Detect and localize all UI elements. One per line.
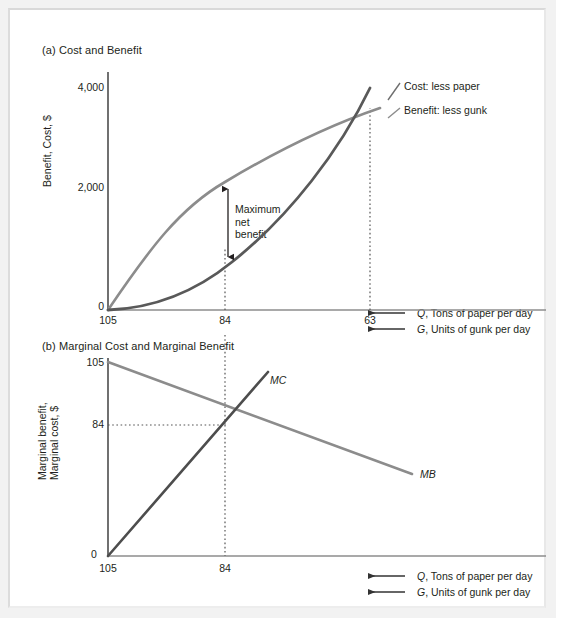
panel-a-axis-note-q-text: , Tons of paper per day [425, 307, 532, 319]
annotation-line-1: Maximum [235, 203, 281, 216]
panel-a-title: (a) Cost and Benefit [42, 44, 142, 56]
panel-b-xtick-105: 105 [95, 562, 121, 574]
panel-a-xtick-63: 63 [357, 314, 383, 326]
panel-a-ytick-2000: 2,000 [64, 181, 104, 193]
panel-b-axis-note-q: Q, Tons of paper per day [417, 570, 532, 582]
panel-a-axis-note-g: G, Units of gunk per day [417, 323, 530, 335]
panel-b-axis-note-g-text: , Units of gunk per day [425, 586, 530, 598]
panel-a-axis-note-q-symbol: Q [417, 307, 425, 319]
panel-b-ytick-105: 105 [72, 356, 104, 368]
panel-b-mc-curve-label: MC [270, 374, 286, 386]
max-net-benefit-annotation: Maximum net benefit [235, 203, 281, 241]
panel-a-xtick-84: 84 [212, 314, 238, 326]
panel-b-y-axis-label-line2: Marginal cost, $ [48, 406, 60, 480]
annotation-line-3: benefit [235, 228, 281, 241]
panel-b-title: (b) Marginal Cost and Marginal Benefit [42, 340, 234, 352]
panel-a-benefit-curve-label: Benefit: less gunk [404, 104, 487, 116]
panel-a-axis-note-g-text: , Units of gunk per day [425, 323, 530, 335]
panel-a-ytick-0: 0 [84, 300, 104, 312]
panel-a-y-axis-label: Benefit, Cost, $ [41, 115, 53, 187]
panel-a-axis-note-g-symbol: G [417, 323, 425, 335]
panel-b-axis-note-q-text: , Tons of paper per day [425, 570, 532, 582]
panel-a-ytick-4000: 4,000 [64, 81, 104, 93]
panel-b-y-axis-label-line1: Marginal benefit, [36, 402, 48, 480]
panel-b-axis-note-g: G, Units of gunk per day [417, 586, 530, 598]
annotation-line-2: net [235, 216, 281, 229]
panel-b-ytick-84: 84 [72, 418, 104, 430]
panel-b-axis-note-g-symbol: G [417, 586, 425, 598]
panel-b-axis-note-q-symbol: Q [417, 570, 425, 582]
panel-a-axis-note-q: Q, Tons of paper per day [417, 307, 532, 319]
panel-b-xtick-84: 84 [212, 562, 238, 574]
panel-b-ytick-0: 0 [84, 548, 104, 560]
panel-a-xtick-105: 105 [95, 314, 121, 326]
panel-b-mb-curve-label: MB [420, 468, 436, 480]
panel-a-cost-curve-label: Cost: less paper [404, 80, 480, 92]
